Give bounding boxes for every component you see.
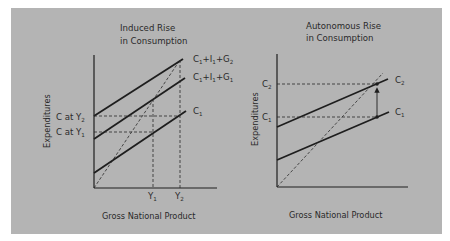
left-title-line2: in Consumption: [120, 36, 187, 46]
left-label-c1: C1: [193, 106, 203, 117]
left-ylabel: Expenditures: [42, 94, 52, 148]
right-label-c2: C2: [395, 75, 405, 86]
left-label-c1-i1-g2: C1+I1+G2: [193, 54, 233, 65]
consumption-diagrams: Induced Rise in Consumption C1+I1+G2 C1+…: [0, 0, 450, 241]
right-title-line1: Autonomous Rise: [306, 21, 381, 31]
right-label-c1: C1: [395, 107, 405, 118]
left-xlabel: Gross National Product: [102, 211, 196, 221]
right-45-degree-line: [277, 73, 383, 187]
right-xlabel: Gross National Product: [289, 210, 383, 220]
right-ylabel: Expenditures: [250, 92, 260, 146]
right-label-c1-level: C1: [262, 112, 272, 123]
left-label-y2: Y2: [174, 191, 184, 202]
right-chart: Autonomous Rise in Consumption C2 C1 C2 …: [250, 21, 408, 220]
right-point-c2: [375, 82, 379, 86]
left-label-c-at-y2: C at Y2: [56, 112, 85, 123]
left-label-y1: Y1: [147, 191, 157, 202]
left-label-c1-i1-g1: C1+I1+G1: [193, 72, 234, 83]
left-label-c-at-y1: C at Y1: [56, 127, 85, 138]
left-line-c1: [94, 111, 186, 173]
right-title-line2: in Consumption: [306, 33, 373, 43]
left-title-line1: Induced Rise: [120, 23, 175, 33]
left-chart: Induced Rise in Consumption C1+I1+G2 C1+…: [42, 23, 234, 221]
right-label-c2-level: C2: [262, 79, 272, 90]
